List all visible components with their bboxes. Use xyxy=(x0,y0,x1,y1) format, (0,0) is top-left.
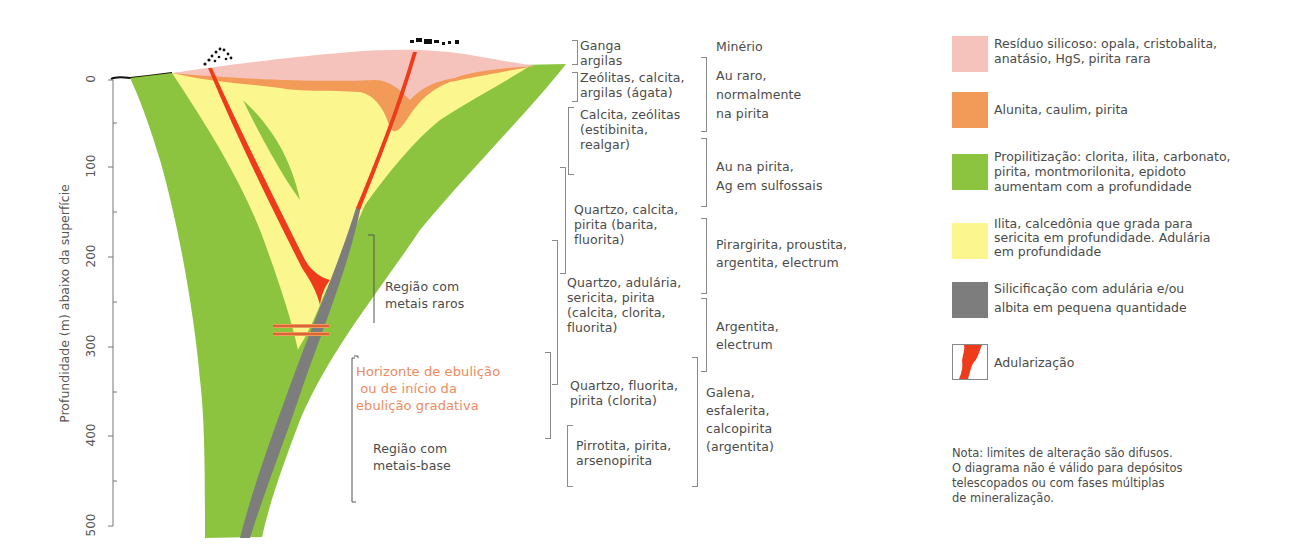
legend-label: Alunita, caulim, pirita xyxy=(994,102,1313,117)
propylitic-swatch xyxy=(952,154,988,190)
axis-tick-300: 300 xyxy=(84,331,98,361)
ore-bracket-3 xyxy=(701,218,707,294)
gangue-item-6: Quartzo, fluorita, pirita (clorita) xyxy=(570,378,678,408)
gangue-bracket-5 xyxy=(552,240,558,385)
gangue-item-1: Ganga argilas xyxy=(580,38,622,68)
gangue-bracket-4 xyxy=(560,167,566,274)
ore-bracket-2 xyxy=(701,138,707,207)
region-rare-metals: Região com metais raros xyxy=(385,278,464,312)
gangue-bracket-3 xyxy=(568,107,574,175)
ebullition-horizon-label: Horizonte de ebulição ou de início da eb… xyxy=(356,363,500,414)
gangue-item-2: Zeólitas, calcita, argilas (ágata) xyxy=(580,70,685,100)
sinter-symbol-left xyxy=(203,48,232,66)
ore-item-3: Pirargirita, proustita, argentita, elect… xyxy=(716,236,847,272)
axis-title: Profundidade (m) abaixo da superfície xyxy=(57,174,72,434)
ore-bracket-1 xyxy=(701,57,707,132)
ore-item-4: Argentita, electrum xyxy=(716,318,779,354)
ore-item-5: Galena, esfalerita, calcopirita (argenti… xyxy=(706,384,774,456)
illite-swatch xyxy=(952,223,988,259)
ore-bracket-5 xyxy=(692,357,698,487)
axis-tick-500: 500 xyxy=(84,510,98,540)
legend-label: Resíduo silicoso: opala, cristobalita, a… xyxy=(994,36,1313,66)
alunite-swatch xyxy=(952,92,988,128)
axis-tick-200: 200 xyxy=(84,241,98,271)
ore-bracket-4 xyxy=(701,298,707,372)
legend-label: Propilitização: clorita, ilita, carbonat… xyxy=(994,149,1313,194)
note-text: Nota: limites de alteração são difusos. … xyxy=(952,446,1182,506)
axis-tick-100: 100 xyxy=(84,151,98,181)
gangue-item-7: Pirrotita, pirita, arsenopirita xyxy=(576,438,671,468)
gangue-item-5: Quartzo, adulária, sericita, pirita (cal… xyxy=(567,275,681,335)
gangue-bracket-1 xyxy=(572,40,578,65)
axis-tick-0: 0 xyxy=(84,64,98,94)
gangue-item-3: Calcita, zeólitas (estibinita, realgar) xyxy=(580,107,680,152)
ore-item-1: Au raro, normalmente na pirita xyxy=(716,66,801,123)
gangue-bracket-6 xyxy=(545,352,551,439)
gangue-bracket-7 xyxy=(567,425,573,487)
legend-label: Adularização xyxy=(994,355,1313,370)
gangue-bracket-2 xyxy=(572,72,578,102)
silicification-swatch xyxy=(952,282,988,318)
axis-tick-400: 400 xyxy=(84,420,98,450)
silica-residue-swatch xyxy=(952,36,988,72)
legend-label: Silicificação com adulária e/ou albita e… xyxy=(994,279,1313,317)
gangue-item-4: Quartzo, calcita, pirita (barita, fluori… xyxy=(574,202,678,247)
adularization-swatch-icon xyxy=(952,344,988,380)
ore-item-2: Au na pirita, Ag em sulfossais xyxy=(716,157,823,195)
region-base-metals: Região com metais-base xyxy=(373,440,451,474)
ore-header: Minério xyxy=(716,39,763,54)
depth-axis xyxy=(108,80,117,526)
sinter-symbol-right xyxy=(410,38,459,45)
legend-label: Ilita, calcedônia que grada para sericit… xyxy=(994,217,1313,259)
